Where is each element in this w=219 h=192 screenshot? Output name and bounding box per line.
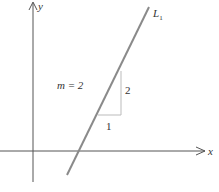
x-axis-label: x [207, 145, 213, 157]
rise-label: 2 [125, 84, 131, 96]
y-axis-label: y [37, 0, 43, 12]
y-axis [29, 2, 37, 182]
slope-triangle [98, 71, 121, 115]
slope-value-label: m = 2 [57, 79, 84, 91]
line-label: L1 [152, 7, 163, 22]
run-label: 1 [106, 120, 112, 132]
line-l1 [67, 7, 149, 175]
x-axis [0, 147, 205, 155]
slope-diagram: y x 2 1 L1 m = 2 [0, 0, 219, 192]
